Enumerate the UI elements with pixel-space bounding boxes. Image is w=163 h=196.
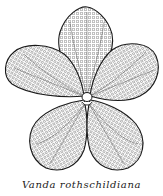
species-caption: Vanda rothschildiana <box>0 179 163 190</box>
lower-right-petal <box>87 100 143 170</box>
flower-column <box>82 93 92 106</box>
botanical-illustration: Vanda rothschildiana <box>0 0 163 196</box>
orchid-flower-drawing <box>0 0 163 178</box>
lower-left-petal <box>30 100 87 170</box>
